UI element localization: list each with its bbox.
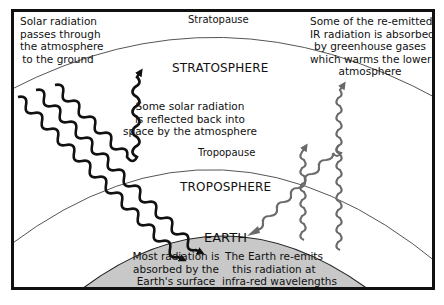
note-line: by greenhouse gases	[310, 40, 430, 53]
note-line: Some of the re-emitted	[310, 15, 430, 28]
note-line: to the ground	[20, 53, 96, 66]
note-line: The Earth re-emits	[222, 250, 326, 263]
note-line: Some solar radiation	[120, 100, 260, 113]
earth-label: EARTH	[204, 230, 247, 246]
troposphere-label: TROPOSPHERE	[180, 180, 271, 194]
note-line: which warms the lower	[310, 53, 430, 66]
note-line: the atmosphere	[20, 40, 96, 53]
stratosphere-label: STRATOSPHERE	[172, 61, 269, 75]
reflected-note: Some solar radiation is reflected back i…	[120, 100, 260, 138]
note-line: infra-red wavelengths	[222, 275, 326, 288]
note-line: passes through	[20, 28, 96, 41]
solar-incoming-note: Solar radiation passes through the atmos…	[20, 15, 96, 65]
surface-absorb-note: Most radiation is absorbed by the Earth'…	[132, 250, 220, 288]
note-line: space by the atmosphere	[120, 125, 260, 138]
note-line: Earth's surface	[132, 275, 220, 288]
tropopause-label: Tropopause	[198, 147, 255, 159]
note-line: absorbed by the	[132, 263, 220, 276]
note-line: IR radiation is absorbed	[310, 28, 430, 41]
note-line: Most radiation is	[132, 250, 220, 263]
ir-emitted-arrow-2	[300, 146, 306, 240]
note-line: this radiation at	[222, 263, 326, 276]
note-line: atmosphere	[310, 65, 430, 78]
ir-emitted-arrow-3	[336, 84, 344, 250]
note-line: is reflected back into	[120, 113, 260, 126]
note-line: Solar radiation	[20, 15, 96, 28]
absorbed-ir-note: Some of the re-emitted IR radiation is a…	[310, 15, 430, 78]
stratopause-label: Stratopause	[188, 14, 249, 26]
re-emit-note: The Earth re-emits this radiation at inf…	[222, 250, 326, 288]
ir-emitted-arrow-1-head	[247, 226, 260, 236]
